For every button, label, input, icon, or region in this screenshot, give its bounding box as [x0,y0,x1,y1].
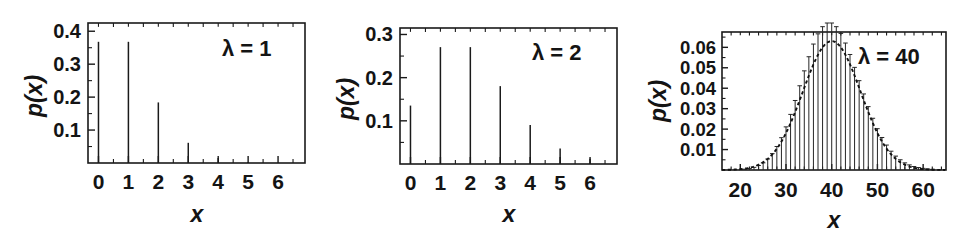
x-axis-title: x [189,201,205,227]
plot-area-lambda-1 [88,23,305,163]
x-tick-labels: 0123456 [405,171,596,194]
y-tick-label: 0.05 [680,57,716,78]
y-tick-label: 0.01 [680,139,716,160]
x-tick-label: 4 [212,170,224,193]
x-tick-label: 2 [464,171,476,194]
chart-panel-lambda-1: 0123456 0.10.20.30.4 x p(x) λ = 1 [0,0,320,246]
y-tick-label: 0.2 [365,67,393,89]
x-tick-label: 6 [272,170,284,193]
y-tick-labels: 0.10.20.30.4 [53,20,82,141]
x-tick-label: 2 [152,170,164,193]
lambda-annotation: λ = 2 [532,40,582,65]
y-tick-label: 0.2 [53,86,81,108]
x-tick-label: 40 [820,178,843,201]
plot-frame [400,28,617,164]
x-tick-labels: 0123456 [93,170,284,193]
y-tick-label: 0.4 [53,20,82,42]
chart-svg-lambda-2: 0123456 0.10.20.3 x p(x) λ = 2 [320,0,640,246]
x-tick-label: 3 [494,171,506,194]
y-axis-title: p(x) [333,78,359,121]
y-axis-title: p(x) [645,80,671,123]
x-tick-label: 30 [774,178,797,201]
chart-svg-lambda-1: 0123456 0.10.20.30.4 x p(x) λ = 1 [0,0,320,246]
x-tick-label: 5 [554,171,566,194]
y-axis-title: p(x) [21,75,47,118]
y-tick-labels: 0.10.20.3 [365,23,393,131]
chart-svg-lambda-40: 2030405060 0.010.020.030.040.050.06 x p(… [640,0,963,246]
x-tick-label: 5 [242,170,254,193]
plot-frame [88,23,305,163]
y-tick-label: 0.3 [53,53,81,75]
x-axis-title: x [501,201,517,227]
x-axis-title: x [826,207,842,233]
y-tick-label: 0.1 [53,119,81,141]
x-tick-label: 4 [524,171,536,194]
chart-panel-lambda-2: 0123456 0.10.20.3 x p(x) λ = 2 [320,0,640,246]
y-tick-labels: 0.010.020.030.040.050.06 [680,37,717,160]
x-tick-label: 1 [435,171,447,194]
y-tick-label: 0.3 [365,23,393,45]
x-tick-label: 50 [866,178,889,201]
poisson-figure: 0123456 0.10.20.30.4 x p(x) λ = 1 012345… [0,0,963,246]
y-tick-label: 0.1 [365,110,393,132]
x-tick-label: 20 [729,178,752,201]
y-tick-label: 0.03 [680,98,716,119]
x-tick-label: 3 [182,170,194,193]
lambda-annotation: λ = 1 [222,36,272,61]
x-tick-label: 0 [93,170,105,193]
x-tick-label: 0 [405,171,417,194]
x-tick-label: 1 [123,170,135,193]
x-tick-label: 60 [911,178,934,201]
chart-panel-lambda-40: 2030405060 0.010.020.030.040.050.06 x p(… [640,0,963,246]
lambda-annotation: λ = 40 [858,44,920,69]
x-tick-labels: 2030405060 [729,178,935,201]
x-tick-label: 6 [584,171,596,194]
y-tick-label: 0.06 [680,37,716,58]
y-tick-label: 0.02 [680,119,716,140]
y-tick-label: 0.04 [680,78,717,99]
plot-area-lambda-2 [400,28,617,164]
